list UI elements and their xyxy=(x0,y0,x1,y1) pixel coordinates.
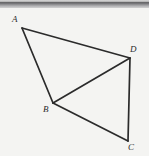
geometry-figure xyxy=(0,0,149,156)
vertex-label-a: A xyxy=(12,15,18,24)
segment-DC xyxy=(128,58,130,141)
vertex-label-b: B xyxy=(43,105,49,114)
diagram-screenshot: A B C D xyxy=(0,0,149,156)
vertex-label-c: C xyxy=(128,143,134,152)
segment-BC xyxy=(53,103,128,141)
vertex-label-d: D xyxy=(130,45,137,54)
segment-AD xyxy=(22,28,130,58)
segment-BD xyxy=(53,58,130,103)
segment-AB xyxy=(22,28,53,103)
